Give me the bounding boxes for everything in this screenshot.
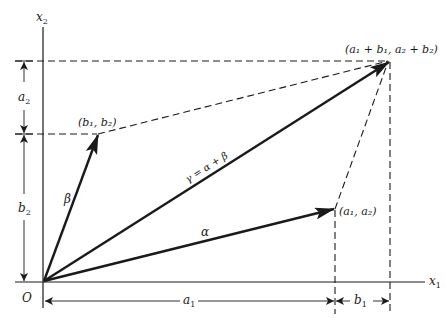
vector-gamma <box>44 62 389 281</box>
dim-b1-label: b1 <box>354 293 367 309</box>
alpha-label: α <box>201 225 209 239</box>
point-a-label: (a₁, a₂) <box>339 205 377 218</box>
dim-a2-label: a2 <box>18 90 30 106</box>
point-sum-label: (a₁ + b₁, a₂ + b₂) <box>345 43 438 56</box>
dashed-a-to-sum <box>335 62 388 209</box>
x1-axis-label: x1 <box>429 274 441 290</box>
point-b-label: (b₁, b₂) <box>78 116 116 129</box>
vector-addition-diagram: x2 x1 O β α γ = α + β (a₁ + b₁, a₂ + b₂)… <box>0 0 446 318</box>
origin-label: O <box>22 291 32 305</box>
dim-b2-label: b2 <box>18 201 31 217</box>
vector-beta <box>44 135 98 281</box>
vector-alpha <box>44 209 334 281</box>
dashed-b-to-sum <box>98 61 388 134</box>
dim-a1-label: a1 <box>183 293 195 309</box>
x2-axis-label: x2 <box>36 10 48 26</box>
beta-label: β <box>63 192 71 206</box>
